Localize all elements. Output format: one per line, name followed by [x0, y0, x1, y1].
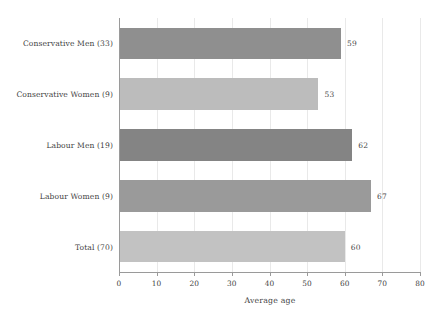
bar-value-label: 53 — [324, 90, 334, 99]
category-label: Labour Women (9) — [40, 191, 113, 200]
x-axis-tick — [119, 272, 120, 276]
bar-row: 59 — [119, 28, 420, 59]
x-axis-tick-label: 50 — [302, 279, 312, 288]
gridline — [420, 18, 421, 272]
x-axis-tick — [157, 272, 158, 276]
x-axis-tick-label: 60 — [340, 279, 350, 288]
bar[interactable] — [119, 231, 345, 262]
x-axis-title: Average age — [119, 296, 421, 305]
x-axis-tick-label: 30 — [227, 279, 237, 288]
x-axis-tick — [345, 272, 346, 276]
x-axis-tick-label: 0 — [117, 279, 122, 288]
x-axis-tick-label: 80 — [415, 279, 425, 288]
bar-row: 67 — [119, 180, 420, 211]
x-axis-tick — [420, 272, 421, 276]
plot-area: 5953626760 — [119, 18, 420, 272]
x-axis-tick — [382, 272, 383, 276]
category-axis-labels: Conservative Men (33)Conservative Women … — [0, 0, 113, 320]
bar-value-label: 67 — [377, 191, 387, 200]
x-axis-tick-label: 10 — [152, 279, 162, 288]
x-axis-tick — [194, 272, 195, 276]
bar-chart: 5953626760 Conservative Men (33)Conserva… — [0, 0, 442, 320]
y-axis-line — [119, 18, 120, 272]
bar-row: 62 — [119, 129, 420, 160]
x-axis-tick — [307, 272, 308, 276]
category-label: Total (70) — [75, 242, 113, 251]
x-axis-tick-label: 70 — [378, 279, 388, 288]
bar[interactable] — [119, 129, 352, 160]
bar[interactable] — [119, 180, 371, 211]
bar[interactable] — [119, 78, 318, 109]
x-axis-tick-label: 40 — [265, 279, 275, 288]
category-label: Conservative Women (9) — [16, 90, 113, 99]
x-axis-tick — [232, 272, 233, 276]
x-axis-tick — [270, 272, 271, 276]
bar-row: 53 — [119, 78, 420, 109]
category-label: Labour Men (19) — [46, 141, 113, 150]
bar-value-label: 59 — [347, 39, 357, 48]
bar-value-label: 62 — [358, 140, 368, 149]
bar[interactable] — [119, 28, 341, 59]
x-axis-tick-label: 20 — [189, 279, 199, 288]
bar-row: 60 — [119, 231, 420, 262]
bar-value-label: 60 — [351, 242, 361, 251]
category-label: Conservative Men (33) — [23, 39, 113, 48]
